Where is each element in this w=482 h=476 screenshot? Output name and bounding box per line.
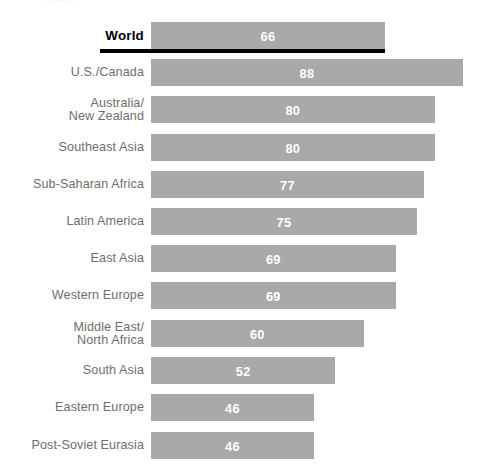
highlight-rule (100, 49, 385, 53)
bar: 77 (151, 171, 424, 198)
bar-row-label: South Asia (0, 364, 144, 378)
bar-value-label: 46 (151, 438, 314, 453)
bar-value-label: 69 (151, 251, 396, 266)
bar: 46 (151, 394, 314, 421)
bar: 75 (151, 208, 417, 235)
bar-row: Southeast Asia80 (0, 134, 482, 161)
bar: 60 (151, 320, 364, 347)
bar-row: Latin America75 (0, 208, 482, 235)
bar-row-label: U.S./Canada (0, 66, 144, 80)
bar-value-label: 75 (151, 214, 417, 229)
bar-value-label: 66 (151, 28, 385, 43)
bar-value-label: 46 (151, 400, 314, 415)
bar: 80 (151, 134, 435, 161)
bar-row-label: Sub-Saharan Africa (0, 178, 144, 192)
bar: 46 (151, 432, 314, 459)
bar-row: Australia/ New Zealand80 (0, 96, 482, 123)
bar-row-label: East Asia (0, 252, 144, 266)
bar-row-label: Middle East/ North Africa (0, 320, 144, 347)
bar-row-label: Post-Soviet Eurasia (0, 439, 144, 453)
bar-value-label: 69 (151, 288, 396, 303)
bar-row: Sub-Saharan Africa77 (0, 171, 482, 198)
bar-row: Middle East/ North Africa60 (0, 320, 482, 347)
bar-value-label: 88 (151, 65, 463, 80)
bar-row-label: Australia/ New Zealand (0, 96, 144, 123)
bar: 69 (151, 245, 396, 272)
bar-row: South Asia52 (0, 357, 482, 384)
bar: 52 (151, 357, 335, 384)
bar-value-label: 80 (151, 140, 435, 155)
bar-row: World66 (0, 22, 482, 49)
bar-value-label: 60 (151, 326, 364, 341)
bar-row-label: Eastern Europe (0, 401, 144, 415)
bar-row: Eastern Europe46 (0, 394, 482, 421)
bar-row-label: Western Europe (0, 289, 144, 303)
bar-row: Post-Soviet Eurasia46 (0, 432, 482, 459)
bar-row-label: Latin America (0, 215, 144, 229)
bar-row: Western Europe69 (0, 282, 482, 309)
bar-row: U.S./Canada88 (0, 59, 482, 86)
bar-value-label: 52 (151, 363, 335, 378)
bar: 80 (151, 96, 435, 123)
bar-value-label: 77 (151, 177, 424, 192)
bar-row-label: Southeast Asia (0, 141, 144, 155)
bar: 69 (151, 282, 396, 309)
bar-value-label: 80 (151, 102, 435, 117)
bar-row-label: World (0, 29, 144, 43)
bar-row: East Asia69 (0, 245, 482, 272)
horizontal-bar-chart: Percent World66U.S./Canada88Australia/ N… (0, 0, 482, 476)
bar: 88 (151, 59, 463, 86)
clipped-header-text: Percent (40, 0, 75, 4)
bar: 66 (151, 22, 385, 49)
